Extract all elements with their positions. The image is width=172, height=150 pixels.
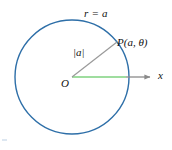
figure-canvas (0, 0, 172, 150)
x-axis-label: x (158, 70, 163, 81)
circle-equation-label: r = a (84, 8, 108, 19)
radius-magnitude-label: |a| (73, 47, 85, 58)
polar-circle-figure: r = a P(a, θ) |a| O x (0, 0, 172, 150)
origin-label: O (61, 78, 69, 89)
point-p-label: P(a, θ) (117, 37, 147, 48)
